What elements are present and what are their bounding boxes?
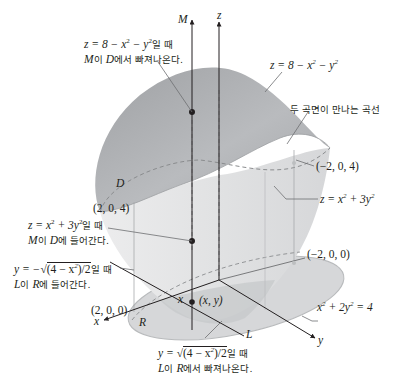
- y-axis-label: y: [318, 333, 323, 347]
- point-xy: [189, 299, 195, 305]
- leader-top-surface: [265, 72, 282, 92]
- bottom-surface-equation: z = x2 + 3y2: [320, 192, 374, 206]
- point-label-m2-0-0: (−2, 0, 0): [307, 247, 350, 261]
- region-D-label: D: [116, 176, 124, 190]
- annotation-exit-top: z = 8 − x2 − y2일 때 M이 D에서 빠져나온다.: [84, 37, 183, 67]
- point-label-2-0-4: (2, 0, 4): [93, 201, 129, 215]
- point-m2-0-0: [292, 261, 296, 265]
- leader-ellipse: [302, 316, 318, 321]
- x-point-label: x: [178, 292, 183, 306]
- L-line-label: L: [246, 327, 252, 341]
- ellipse-equation: x2 + 2y2 = 4: [317, 300, 373, 314]
- point-label-m2-0-4: (−2, 0, 4): [316, 159, 359, 173]
- top-surface-equation: z = 8 − x2 − y2: [270, 58, 338, 72]
- region-R-label: R: [139, 315, 146, 329]
- annotation-enter-bottom: z = x2 + 3y2일 때 M이 D에 들어간다.: [28, 218, 109, 248]
- z-axis-label: z: [217, 8, 221, 22]
- point-label-2-0-0: (2, 0, 0): [91, 303, 127, 317]
- point-m2-0-4: [292, 161, 296, 165]
- annotation-exit-R: y = √(4 − x2)/2일 때 L이 R에서 빠져나온다.: [158, 346, 253, 376]
- point-label-xy: (x, y): [199, 293, 223, 307]
- annotation-enter-R: y = −√(4 − x2)/2일 때 L이 R에 들어간다.: [14, 262, 112, 292]
- M-axis-label: M: [178, 12, 188, 26]
- intersection-curve-label: 두 곡면이 만나는 곡선: [290, 102, 380, 117]
